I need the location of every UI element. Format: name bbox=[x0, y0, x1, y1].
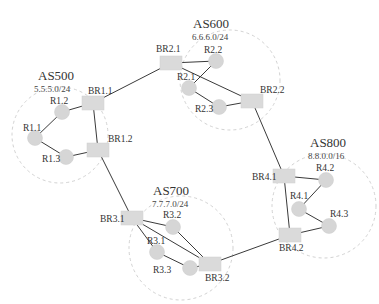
border-router-icon-br2-2[interactable] bbox=[241, 94, 263, 108]
router-icon-r4-2[interactable] bbox=[319, 173, 334, 188]
router-icon-r2-3[interactable] bbox=[212, 100, 227, 115]
border-router-icon-br2-1[interactable] bbox=[160, 56, 182, 70]
link-BR2_2-BR4_1 bbox=[252, 101, 284, 176]
node-label-r3-3: R3.3 bbox=[153, 265, 171, 275]
node-label-br1-2: BR1.2 bbox=[108, 134, 133, 144]
as-title-as800: AS800 bbox=[310, 135, 346, 150]
node-label-r2-2: R2.2 bbox=[204, 45, 222, 55]
node-label-r2-3: R2.3 bbox=[195, 104, 213, 114]
border-router-icon-br1-1[interactable] bbox=[82, 96, 104, 110]
node-label-r1-2: R1.2 bbox=[50, 96, 68, 106]
node-label-r1-3: R1.3 bbox=[42, 154, 60, 164]
router-icon-r2-2[interactable] bbox=[209, 54, 224, 69]
as-prefix-as500: 5.5.5.0/24 bbox=[34, 84, 71, 94]
link-BR4_1-BR4_2 bbox=[284, 176, 290, 235]
as-title-as600: AS600 bbox=[193, 16, 229, 31]
node-label-br2-2: BR2.2 bbox=[260, 85, 285, 95]
network-diagram: AS5005.5.5.0/24AS6006.6.6.0/24AS7007.7.7… bbox=[0, 0, 379, 304]
node-label-r3-1: R3.1 bbox=[147, 236, 165, 246]
node-label-r4-1: R4.1 bbox=[290, 191, 308, 201]
router-icon-r3-1[interactable] bbox=[150, 245, 165, 260]
node-label-br4-2: BR4.2 bbox=[279, 243, 304, 253]
link-BR1_1-BR2_1 bbox=[93, 63, 171, 103]
node-label-r2-1: R2.1 bbox=[177, 72, 195, 82]
node-label-r1-1: R1.1 bbox=[23, 123, 41, 133]
border-router-icon-br3-2[interactable] bbox=[199, 257, 221, 271]
as-prefix-as800: 8.8.0.0/16 bbox=[308, 151, 345, 161]
border-router-icon-br1-2[interactable] bbox=[87, 143, 109, 157]
router-icon-r1-3[interactable] bbox=[59, 150, 74, 165]
as-prefix-as700: 7.7.7.0/24 bbox=[152, 199, 189, 209]
node-label-br3-2: BR3.2 bbox=[205, 273, 230, 283]
router-icon-r4-1[interactable] bbox=[292, 202, 307, 217]
node-label-br4-1: BR4.1 bbox=[252, 172, 277, 182]
node-label-br2-1: BR2.1 bbox=[156, 44, 181, 54]
node-label-br1-1: BR1.1 bbox=[88, 86, 113, 96]
router-icon-r4-3[interactable] bbox=[322, 219, 337, 234]
link-BR2_1-BR2_2 bbox=[171, 63, 252, 101]
node-label-r3-2: R3.2 bbox=[163, 210, 181, 220]
as-prefix-as600: 6.6.6.0/24 bbox=[192, 32, 229, 42]
border-router-icon-br4-2[interactable] bbox=[279, 228, 301, 242]
router-icon-r1-2[interactable] bbox=[55, 105, 70, 120]
as-title-as700: AS700 bbox=[153, 183, 189, 198]
node-label-r4-2: R4.2 bbox=[316, 163, 334, 173]
as-title-as500: AS500 bbox=[38, 68, 74, 83]
link-BR3_2-BR4_2 bbox=[210, 235, 290, 264]
link-BR1_2-BR3_1 bbox=[98, 150, 132, 218]
node-label-r4-3: R4.3 bbox=[330, 209, 348, 219]
router-icon-r3-2[interactable] bbox=[166, 220, 181, 235]
node-label-br3-1: BR3.1 bbox=[100, 214, 125, 224]
router-icon-r3-3[interactable] bbox=[183, 261, 198, 276]
router-icon-r2-1[interactable] bbox=[182, 81, 197, 96]
